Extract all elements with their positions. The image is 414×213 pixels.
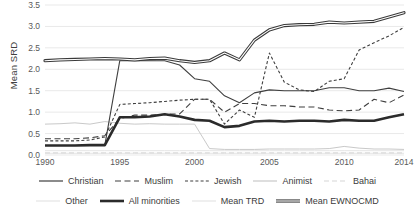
x-tick-label: 1995: [110, 157, 129, 167]
legend-label: Jewish: [214, 176, 242, 186]
legend-swatch-jewish: [184, 176, 210, 186]
series-line-christian: [45, 61, 404, 146]
legend-item-bahai[interactable]: Bahai: [323, 176, 376, 186]
x-tick-label: 1990: [36, 157, 55, 167]
chart-container: Mean SRD 0.00.51.01.52.02.53.03.5 199019…: [0, 0, 414, 213]
legend-swatch-bahai: [323, 176, 349, 186]
legend-item-muslim[interactable]: Muslim: [114, 176, 173, 186]
legend-swatch-muslim: [114, 176, 140, 186]
x-axis-tick-labels: 199019952000200520102014: [0, 157, 414, 171]
legend-swatch-other: [35, 196, 61, 206]
legend-swatch-christian: [38, 176, 64, 186]
chart-legend: ChristianMuslimJewishAnimistBahaiOtherAl…: [0, 171, 414, 213]
series-line-muslim: [45, 95, 404, 139]
series-line-mean-ewnocmd: [45, 13, 404, 63]
legend-item-all-minorities[interactable]: All minorities: [99, 196, 180, 206]
series-line-all-minorities: [45, 114, 404, 145]
legend-swatch-mean-ewnocmd: [275, 196, 301, 206]
legend-row: ChristianMuslimJewishAnimistBahai: [0, 171, 414, 191]
legend-item-christian[interactable]: Christian: [38, 176, 104, 186]
legend-item-animist[interactable]: Animist: [252, 176, 312, 186]
legend-label: Mean EWNOCMD: [305, 196, 379, 206]
x-tick-label: 2005: [260, 157, 279, 167]
legend-label: Muslim: [144, 176, 173, 186]
legend-item-other[interactable]: Other: [35, 196, 88, 206]
legend-swatch-animist: [252, 176, 278, 186]
series-line-jewish: [45, 27, 404, 141]
legend-label: Animist: [282, 176, 312, 186]
legend-item-mean-ewnocmd[interactable]: Mean EWNOCMD: [275, 196, 379, 206]
legend-row: OtherAll minoritiesMean TRDMean EWNOCMD: [0, 191, 414, 211]
series-line-mean-ewnocmd-inner: [45, 13, 404, 63]
x-tick-label: 2000: [185, 157, 204, 167]
legend-swatch-all-minorities: [99, 196, 125, 206]
legend-label: Bahai: [353, 176, 376, 186]
legend-label: Christian: [68, 176, 104, 186]
x-tick-label: 2014: [395, 157, 414, 167]
chart-plot-area: [0, 0, 414, 165]
x-tick-label: 2010: [335, 157, 354, 167]
legend-label: Mean TRD: [221, 196, 264, 206]
legend-label: All minorities: [129, 196, 180, 206]
legend-label: Other: [65, 196, 88, 206]
legend-item-jewish[interactable]: Jewish: [184, 176, 242, 186]
legend-item-mean-trd[interactable]: Mean TRD: [191, 196, 264, 206]
legend-swatch-mean-trd: [191, 196, 217, 206]
